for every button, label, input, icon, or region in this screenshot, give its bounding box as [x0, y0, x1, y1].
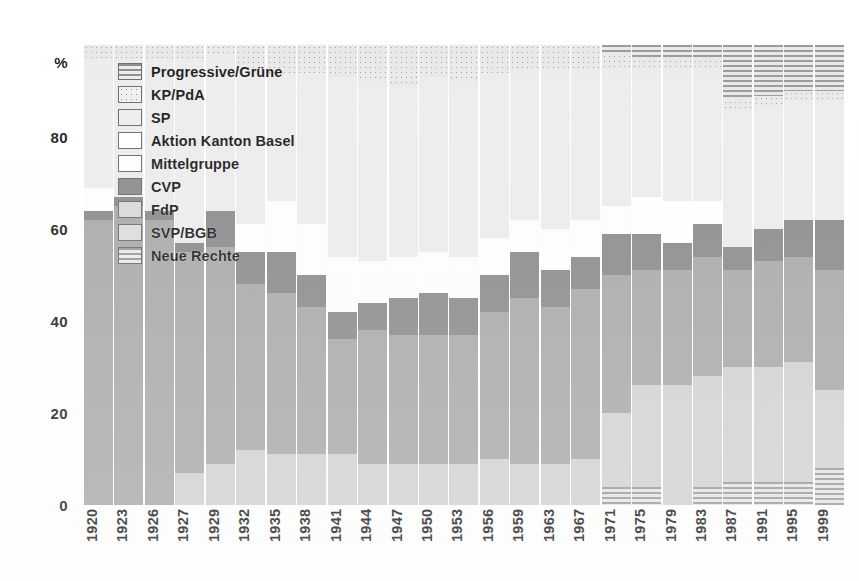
segment-fdp-1935[interactable] [267, 293, 296, 454]
segment-kp-1959[interactable] [510, 45, 539, 68]
segment-kp-1967[interactable] [571, 45, 600, 68]
segment-akb-1975[interactable] [632, 197, 661, 234]
segment-mittel-1947[interactable] [389, 257, 418, 298]
legend-item-svp-bgb[interactable]: SVP/BGB [118, 221, 378, 244]
legend-item-aktion-kanton-basel[interactable]: Aktion Kanton Basel [118, 129, 378, 152]
segment-fdp-1950[interactable] [419, 335, 448, 464]
segment-kp-1929[interactable] [206, 45, 235, 54]
segment-prog-1999[interactable] [815, 45, 844, 91]
segment-svp-1932[interactable] [236, 450, 265, 505]
segment-neuerechte-1991[interactable] [754, 482, 783, 505]
legend-item-cvp[interactable]: CVP [118, 175, 378, 198]
segment-kp-1995[interactable] [784, 91, 813, 100]
segment-svp-1956[interactable] [480, 459, 509, 505]
segment-mittel-1920[interactable] [84, 188, 113, 211]
segment-mittel-1956[interactable] [480, 238, 509, 275]
segment-akb-1979[interactable] [663, 201, 692, 242]
bar-1987[interactable] [723, 45, 752, 505]
segment-kp-1991[interactable] [754, 96, 783, 105]
bar-1956[interactable] [480, 45, 509, 505]
segment-fdp-1995[interactable] [784, 257, 813, 363]
segment-akb-1983[interactable] [693, 201, 722, 224]
bar-1920[interactable] [84, 45, 113, 505]
segment-cvp-1950[interactable] [419, 293, 448, 334]
segment-cvp-1987[interactable] [723, 247, 752, 270]
segment-kp-1920[interactable] [84, 45, 113, 59]
segment-sp-1959[interactable] [510, 68, 539, 220]
segment-cvp-1963[interactable] [541, 270, 570, 307]
bar-1953[interactable] [449, 45, 478, 505]
segment-prog-1995[interactable] [784, 45, 813, 91]
segment-cvp-1947[interactable] [389, 298, 418, 335]
bar-1975[interactable] [632, 45, 661, 505]
segment-neuerechte-1983[interactable] [693, 487, 722, 505]
bar-1983[interactable] [693, 45, 722, 505]
segment-kp-1947[interactable] [389, 45, 418, 86]
segment-sp-1953[interactable] [449, 82, 478, 257]
segment-fdp-1999[interactable] [815, 270, 844, 390]
segment-svp-1971[interactable] [602, 413, 631, 487]
segment-kp-1950[interactable] [419, 45, 448, 77]
segment-kp-1963[interactable] [541, 45, 570, 68]
segment-prog-1987[interactable] [723, 45, 752, 100]
segment-sp-1956[interactable] [480, 73, 509, 239]
segment-kp-1983[interactable] [693, 59, 722, 68]
bar-1971[interactable] [602, 45, 631, 505]
bar-1963[interactable] [541, 45, 570, 505]
segment-cvp-1995[interactable] [784, 220, 813, 257]
bar-1991[interactable] [754, 45, 783, 505]
segment-cvp-1941[interactable] [328, 312, 357, 340]
segment-fdp-1938[interactable] [297, 307, 326, 454]
segment-kp-1956[interactable] [480, 45, 509, 73]
segment-fdp-1929[interactable] [206, 247, 235, 463]
segment-fdp-1971[interactable] [602, 275, 631, 413]
segment-fdp-1947[interactable] [389, 335, 418, 464]
segment-neuerechte-1975[interactable] [632, 487, 661, 505]
segment-cvp-1979[interactable] [663, 243, 692, 271]
segment-svp-1979[interactable] [663, 385, 692, 505]
segment-prog-1979[interactable] [663, 45, 692, 59]
segment-cvp-1999[interactable] [815, 220, 844, 271]
segment-svp-1991[interactable] [754, 367, 783, 482]
legend-item-progressive-gr-ne[interactable]: Progressive/Grüne [118, 60, 378, 83]
segment-svp-1953[interactable] [449, 464, 478, 505]
segment-fdp-1920[interactable] [84, 220, 113, 505]
segment-fdp-1991[interactable] [754, 261, 783, 367]
segment-mittel-1953[interactable] [449, 257, 478, 298]
segment-sp-1987[interactable] [723, 109, 752, 247]
segment-cvp-1959[interactable] [510, 252, 539, 298]
segment-kp-1971[interactable] [602, 54, 631, 68]
segment-fdp-1963[interactable] [541, 307, 570, 463]
segment-sp-1950[interactable] [419, 77, 448, 252]
bar-1959[interactable] [510, 45, 539, 505]
segment-sp-1967[interactable] [571, 68, 600, 220]
segment-svp-1975[interactable] [632, 385, 661, 486]
segment-sp-1999[interactable] [815, 100, 844, 220]
segment-svp-1941[interactable] [328, 454, 357, 505]
segment-neuerechte-1999[interactable] [815, 468, 844, 505]
segment-cvp-1920[interactable] [84, 211, 113, 220]
segment-cvp-1991[interactable] [754, 229, 783, 261]
segment-cvp-1956[interactable] [480, 275, 509, 312]
segment-mittel-1959[interactable] [510, 220, 539, 252]
segment-sp-1920[interactable] [84, 59, 113, 188]
segment-cvp-1967[interactable] [571, 257, 600, 289]
segment-prog-1971[interactable] [602, 45, 631, 54]
segment-fdp-1983[interactable] [693, 257, 722, 377]
segment-kp-1923[interactable] [114, 45, 143, 59]
segment-prog-1975[interactable] [632, 45, 661, 59]
segment-svp-1963[interactable] [541, 464, 570, 505]
segment-svp-1929[interactable] [206, 464, 235, 505]
segment-fdp-1956[interactable] [480, 312, 509, 459]
segment-cvp-1971[interactable] [602, 234, 631, 275]
segment-svp-1927[interactable] [175, 473, 204, 505]
segment-fdp-1967[interactable] [571, 289, 600, 459]
segment-fdp-1927[interactable] [175, 252, 204, 473]
segment-cvp-1983[interactable] [693, 224, 722, 256]
segment-sp-1963[interactable] [541, 68, 570, 229]
segment-prog-1991[interactable] [754, 45, 783, 96]
segment-neuerechte-1995[interactable] [784, 482, 813, 505]
bar-1967[interactable] [571, 45, 600, 505]
segment-mittel-1944[interactable] [358, 261, 387, 302]
legend-item-kp-pda[interactable]: KP/PdA [118, 83, 378, 106]
